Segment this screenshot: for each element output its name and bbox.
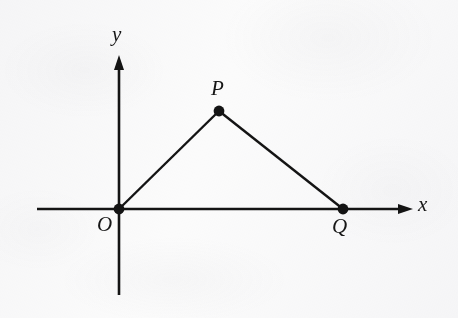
point-label-o: O bbox=[97, 214, 112, 235]
figure-container: y x O P Q bbox=[0, 0, 458, 318]
point-dot-p bbox=[214, 106, 225, 117]
coordinate-diagram bbox=[0, 0, 458, 318]
point-label-q: Q bbox=[332, 216, 347, 237]
point-dot-q bbox=[338, 204, 349, 215]
y-axis-label: y bbox=[112, 24, 121, 45]
y-axis-arrow-icon bbox=[114, 55, 124, 70]
x-axis-label: x bbox=[418, 194, 427, 215]
segment-pq bbox=[219, 111, 343, 209]
x-axis-arrow-icon bbox=[398, 204, 413, 214]
point-dot-o bbox=[114, 204, 125, 215]
point-label-p: P bbox=[211, 78, 224, 99]
segment-op bbox=[119, 111, 219, 209]
